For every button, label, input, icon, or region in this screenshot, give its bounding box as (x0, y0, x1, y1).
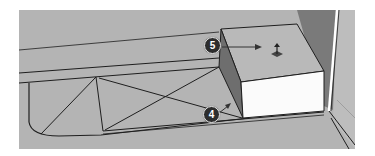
3d-scene[interactable] (19, 10, 355, 149)
callout-4: 4 (203, 106, 220, 123)
model-viewport[interactable]: 5 4 (19, 10, 355, 149)
brace-1 (41, 77, 96, 134)
callout-5: 5 (204, 37, 221, 54)
ledge-line-2 (19, 58, 219, 73)
brace-2 (96, 77, 103, 131)
ledge-line-1 (19, 32, 219, 50)
brace-4 (105, 67, 219, 130)
ledge-line-3 (19, 67, 219, 83)
